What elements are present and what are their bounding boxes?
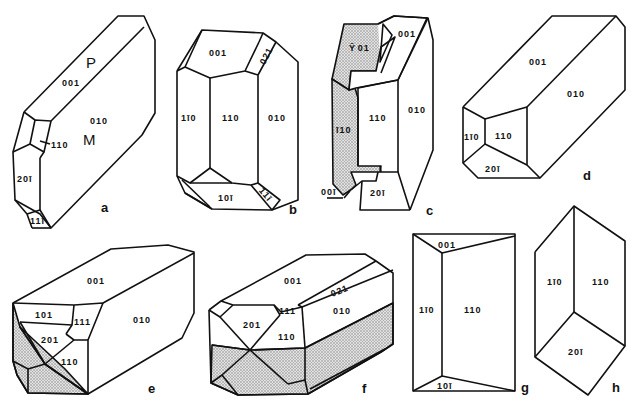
- face-label: 010: [90, 116, 108, 126]
- face-label: 110: [464, 305, 482, 315]
- face-label: 110: [222, 113, 240, 123]
- face-label: M: [83, 131, 96, 148]
- face-label: 1ī0: [181, 113, 197, 123]
- face-label: 00ī: [321, 187, 337, 197]
- face-label: P: [86, 54, 96, 71]
- crystal-e: 001 101 111 010 201 110 e: [13, 245, 194, 396]
- panel-letter: a: [101, 200, 109, 215]
- panel-letter: b: [289, 202, 297, 217]
- face-label: 010: [408, 105, 426, 115]
- crystal-b: 001 021 1ī0 110 010 10ī 11ī b: [177, 30, 298, 217]
- panel-letter: f: [362, 381, 367, 396]
- face-label: Ȳ 01: [349, 43, 370, 53]
- face-label: 10ī: [437, 381, 453, 391]
- face-label: 1ī0: [547, 277, 563, 287]
- face-label: 010: [567, 89, 585, 99]
- crystal-h: 1ī0 110 20ī h: [535, 206, 625, 395]
- face-label: 201: [41, 335, 59, 345]
- face-label: 110: [61, 357, 79, 367]
- face-label: 001: [398, 29, 416, 39]
- crystal-d: 001 010 1ī0 110 20ī d: [463, 16, 625, 183]
- crystal-f: 001 021 111 010 201 110 f: [209, 254, 393, 396]
- face-label: 001: [62, 78, 80, 88]
- panel-letter: e: [148, 381, 155, 396]
- face-label: 11ī: [30, 216, 45, 226]
- crystal-c: Ȳ 01 001 ī10 110 010 00ī 20ī c: [321, 16, 433, 218]
- face-label: 110: [592, 277, 610, 287]
- face-label: ī10: [335, 125, 352, 135]
- panel-letter: c: [426, 203, 433, 218]
- face-label: 010: [333, 306, 351, 316]
- face-label: 010: [133, 315, 151, 325]
- face-label: 110: [495, 131, 513, 141]
- panel-letter: g: [521, 380, 529, 395]
- face-label: 101: [35, 310, 53, 320]
- face-label: 11ī: [257, 186, 274, 204]
- face-label: 201: [243, 320, 261, 330]
- face-label: 110: [369, 113, 387, 123]
- face-label: 001: [529, 57, 547, 67]
- face-label: 110: [51, 140, 69, 150]
- crystal-figure: P 001 010 M 110 20ī 11ī a 001 021 1ī0 11…: [0, 0, 631, 408]
- face-label: 10ī: [218, 193, 234, 203]
- crystal-g: 001 1ī0 110 10ī g: [413, 234, 529, 395]
- face-label: 001: [209, 48, 227, 58]
- face-label: 111: [74, 317, 91, 327]
- panel-letter: h: [612, 380, 620, 395]
- face-label: 001: [438, 240, 456, 250]
- face-label: 111: [279, 306, 296, 316]
- panel-letter: d: [583, 168, 591, 183]
- face-label: 20ī: [485, 164, 501, 174]
- face-label: 20ī: [370, 188, 386, 198]
- face-label: 010: [268, 113, 286, 123]
- face-label: 001: [87, 276, 105, 286]
- face-label: 1ī0: [419, 305, 435, 315]
- face-label: 20ī: [568, 347, 584, 357]
- face-label: 001: [284, 276, 302, 286]
- face-label: 110: [278, 332, 296, 342]
- crystal-a: P 001 010 M 110 20ī 11ī a: [13, 16, 155, 228]
- face-label: 20ī: [17, 174, 33, 184]
- face-label: 1ī0: [464, 132, 480, 142]
